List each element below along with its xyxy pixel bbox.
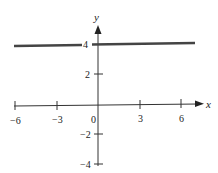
x-tick-label: 0: [91, 114, 96, 125]
chart-canvas: x y −6 −3 0 3 6 4 2 −2 −4: [0, 0, 218, 173]
x-tick-label: 3: [138, 113, 143, 124]
y-tick-label: −4: [80, 159, 91, 170]
x-tick-label: −6: [10, 115, 21, 126]
x-tick-label: 6: [179, 113, 184, 124]
series-line-y-equals-4: [14, 45, 82, 46]
series-line-y-equals-4: [92, 43, 195, 45]
y-tick-label: 2: [85, 69, 90, 80]
x-axis-label: x: [205, 98, 211, 110]
x-axis-arrow-icon: [195, 101, 204, 108]
y-axis-label: y: [93, 11, 99, 23]
y-axis-arrow-icon: [95, 25, 102, 34]
x-tick-label: −3: [52, 114, 63, 125]
y-tick-label: 4: [83, 39, 88, 50]
x-axis: [14, 104, 198, 106]
y-tick-label: −2: [80, 129, 91, 140]
